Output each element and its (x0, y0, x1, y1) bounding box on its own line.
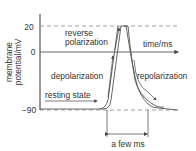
y-axis-label: membrane potential/mV (4, 38, 23, 85)
label-repolarization: repolarization (137, 71, 188, 81)
action-potential-diagram: 20 0 −90 membrane potential/mV reverse p… (0, 0, 196, 151)
label-depolarization: depolarization (51, 71, 103, 81)
tick-20: 20 (24, 22, 34, 32)
label-polarization: polarization (65, 37, 108, 47)
label-time-axis: time/ms (143, 39, 172, 49)
tick-minus90: −90 (22, 105, 37, 115)
tick-0: 0 (31, 47, 36, 57)
y-axis-label-line2: potential/mV (13, 38, 23, 85)
label-resting-state: resting state (45, 90, 91, 100)
label-duration: a few ms (111, 139, 145, 149)
